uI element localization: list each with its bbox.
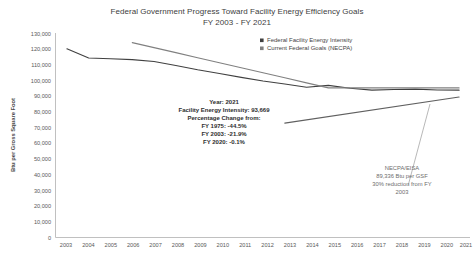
callout-line: Year: 2021 (209, 99, 239, 105)
x-tick-label: 2008 (172, 242, 184, 248)
legend-label-current-federal-goals: Current Federal Goals (NECPA) (267, 45, 352, 51)
x-tick-label: 2011 (239, 242, 251, 248)
callout-line: 30% reduction from FY (372, 181, 431, 187)
series-line-necpa-target-trajectory (285, 97, 459, 123)
callout-line: FY 1975: -44.5% (201, 123, 247, 129)
y-tick-label: 130,000 (31, 31, 51, 37)
legend-marker-icon (260, 47, 264, 51)
necpa-eisa-callout: NECPA/EISA 89,336 Btu per GSF 30% reduct… (372, 165, 431, 195)
x-tick-label: 2017 (373, 242, 385, 248)
legend-label-federal-facility-energy-intensity: Federal Facility Energy Intensity (267, 37, 352, 43)
chart-container: Federal Government Progress Toward Facil… (0, 0, 474, 261)
y-tick-label: 40,000 (34, 172, 51, 178)
legend-marker-icon (260, 39, 264, 43)
callout-line: 89,336 Btu per GSF (376, 173, 428, 179)
y-tick-label: 70,000 (34, 125, 51, 131)
x-tick-label: 2014 (306, 242, 318, 248)
y-tick-label: 50,000 (34, 156, 51, 162)
y-axis-title: Btu per Gross Square Foot (10, 98, 16, 172)
facility-intensity-callout: Year: 2021 Facility Energy Intensity: 93… (178, 99, 270, 145)
y-tick-label: 120,000 (31, 46, 51, 52)
y-tick-label: 0 (48, 235, 51, 241)
chart-plot: 130,000 120,000 110,000 100,000 90,000 8… (0, 0, 474, 261)
y-tick-label: 30,000 (34, 188, 51, 194)
series-line-federal-facility-energy-intensity (67, 49, 459, 90)
callout-line: NECPA/EISA (385, 165, 419, 171)
x-tick-label: 2005 (105, 242, 117, 248)
callout-line: 2003 (396, 189, 409, 195)
x-tick-label: 2004 (82, 242, 94, 248)
x-tick-label: 2012 (261, 242, 273, 248)
y-tick-label: 90,000 (34, 93, 51, 99)
x-tick-label: 2019 (418, 242, 430, 248)
y-tick-label: 10,000 (34, 219, 51, 225)
x-axis-ticks: 2003 2004 2005 2006 2007 2008 2009 2010 … (60, 242, 472, 248)
y-tick-label: 80,000 (34, 109, 51, 115)
x-tick-label: 2006 (127, 242, 139, 248)
x-tick-label: 2010 (217, 242, 229, 248)
callout-line: FY 2003: -21.9% (201, 131, 247, 137)
x-tick-label: 2018 (396, 242, 408, 248)
x-tick-label: 2016 (351, 242, 363, 248)
chart-legend: Federal Facility Energy Intensity Curren… (260, 37, 352, 51)
y-tick-label: 20,000 (34, 203, 51, 209)
x-tick-label: 2013 (284, 242, 296, 248)
y-tick-label: 110,000 (31, 62, 51, 68)
callout-line: Percentage Change from: (187, 115, 260, 121)
x-tick-label: 2015 (329, 242, 341, 248)
callout-line: Facility Energy Intensity: 93,669 (178, 107, 270, 113)
x-tick-label: 2009 (194, 242, 206, 248)
callout-line: FY 2020: -0.1% (203, 139, 246, 145)
x-tick-label: 2021 (460, 242, 472, 248)
x-tick-label: 2007 (149, 242, 161, 248)
y-axis-ticks: 130,000 120,000 110,000 100,000 90,000 8… (31, 31, 51, 241)
x-tick-label: 2003 (60, 242, 72, 248)
x-tick-label: 2020 (441, 242, 453, 248)
y-tick-label: 60,000 (34, 140, 51, 146)
y-tick-label: 100,000 (31, 78, 51, 84)
